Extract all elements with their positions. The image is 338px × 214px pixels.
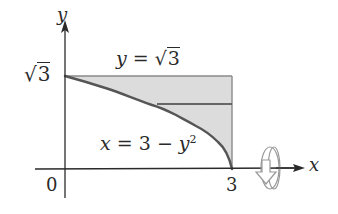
shaded-region (65, 76, 232, 169)
sqrt-symbol: √ (155, 49, 167, 68)
label-minus: − (157, 132, 173, 154)
label-x-var: x (100, 132, 111, 154)
x-axis (35, 168, 296, 169)
label-y-var: y (116, 47, 127, 69)
label-y-equals-sqrt3: y = √3 (116, 47, 180, 68)
label-equals: = (133, 47, 149, 69)
sqrt-symbol: √ (24, 64, 37, 84)
label-x-equals-3-minus-y-squared: x = 3 − y2 (100, 134, 197, 153)
x-axis-label: x (309, 156, 319, 174)
sqrt-radicand: 3 (167, 47, 180, 68)
y-axis-label: y (57, 6, 67, 24)
label-const-3: 3 (139, 132, 151, 154)
x-tick-label-3: 3 (226, 176, 237, 194)
y-tick-label-sqrt3: √3 (24, 62, 50, 84)
label-y-var: y (179, 132, 190, 154)
label-equals: = (117, 132, 133, 154)
label-exponent: 2 (190, 133, 197, 146)
sqrt-radicand: 3 (37, 62, 51, 84)
origin-label: 0 (46, 176, 57, 194)
